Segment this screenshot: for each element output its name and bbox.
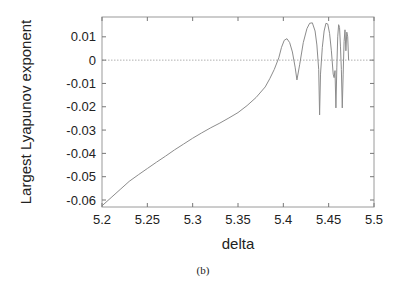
x-tick-label: 5.2 [93,212,111,227]
x-tick-label: 5.35 [225,212,250,227]
y-tick-label: -0.03 [66,123,96,138]
y-tick-label: -0.04 [66,146,96,161]
x-tick-label: 5.4 [274,212,292,227]
y-axis-label: Largest Lyapunov exponent [17,19,34,204]
x-tick-label: 5.45 [316,212,341,227]
series-line-lyapunov [102,23,349,206]
y-tick-label: -0.05 [66,169,96,184]
x-axis-label: delta [222,235,255,252]
lyapunov-chart: 5.25.255.35.355.45.455.5 0.010-0.01-0.02… [0,0,409,288]
x-tick-label: 5.25 [135,212,160,227]
figure-caption: (b) [197,264,210,277]
y-tick-label: 0.01 [71,29,96,44]
x-tick-label: 5.3 [184,212,202,227]
y-tick-label: -0.01 [66,76,96,91]
y-tick-label: -0.02 [66,99,96,114]
y-tick-label: -0.06 [66,193,96,208]
y-tick-label: 0 [89,53,96,68]
x-tick-label: 5.5 [365,212,383,227]
